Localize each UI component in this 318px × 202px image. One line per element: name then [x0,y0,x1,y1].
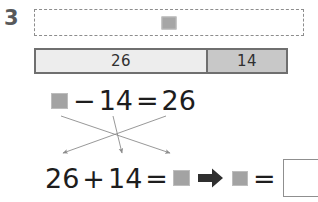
problem-number: 3 [4,8,19,29]
unknown-square-icon [51,93,68,109]
operand-26: 26 [44,165,80,192]
plus-operator: + [80,165,107,192]
equals-operator: = [143,165,170,192]
dashed-work-box[interactable] [34,9,304,36]
bar-segment-left: 26 [36,50,208,72]
arrow-26-to-26 [63,116,166,153]
bar-model: 26 14 [34,48,288,74]
arrow-14-to-14 [113,116,122,153]
operand-26: 26 [161,87,197,114]
equals-operator: = [251,165,278,192]
equation-bottom: 26 + 14 = = [44,159,318,197]
equation-top: − 14 = 26 [48,87,197,114]
worksheet-page: 3 26 14 − 14 = 26 26 + 14 = [0,0,318,202]
arrow-unknown-to-result [61,116,170,153]
unknown-square-icon [173,170,190,186]
minus-operator: − [71,87,98,114]
operand-14: 14 [98,87,134,114]
unknown-square-icon [232,171,248,186]
unknown-square-icon [162,16,177,29]
implication-arrow-icon [198,167,224,189]
answer-box[interactable] [283,159,318,197]
equals-operator: = [134,87,161,114]
operand-14: 14 [107,165,143,192]
bar-segment-right: 14 [208,50,286,72]
